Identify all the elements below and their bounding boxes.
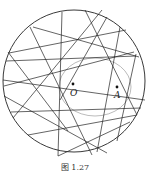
point-a-dot: [116, 86, 119, 89]
chord-lines: [3, 10, 145, 156]
point-o-label: O: [70, 88, 78, 98]
point-a-label: A: [113, 90, 121, 100]
envelope-ellipse: [59, 58, 131, 116]
circle-chord-diagram: O A: [0, 0, 150, 160]
figure-caption: 图 1.27: [0, 161, 150, 172]
point-o-dot: [72, 83, 75, 86]
